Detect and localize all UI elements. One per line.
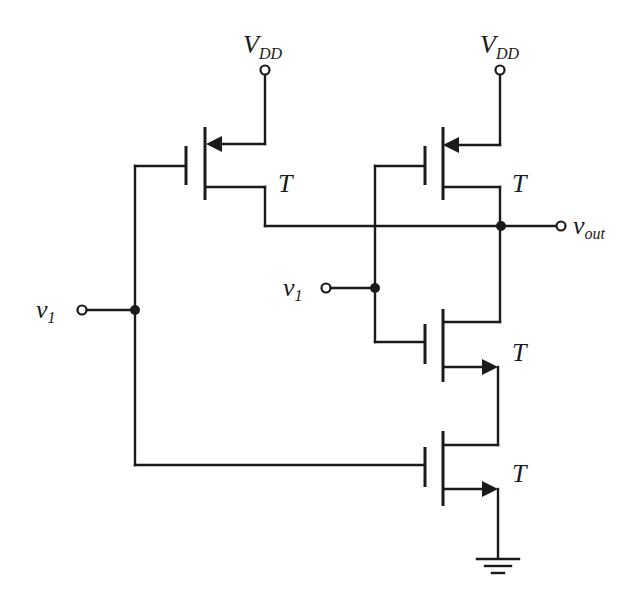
circuit-diagram: VDD T VDD T vout v1 T v1 <box>0 0 635 609</box>
pmos-right <box>375 75 500 342</box>
pmos-right-arrow-icon <box>443 137 459 153</box>
vdd-left-label: VDD <box>243 30 282 62</box>
nmos-bottom-arrow-icon <box>482 481 498 497</box>
nmos-bottom-label: T <box>512 459 528 488</box>
v1-right-terminal <box>322 284 331 293</box>
ground-icon <box>477 559 519 573</box>
v1-left-label: v1 <box>36 295 56 326</box>
vout-terminal <box>557 222 566 231</box>
vdd-right-label: VDD <box>480 30 519 62</box>
nmos-top-label: T <box>512 338 528 367</box>
v1-right-junction-node <box>370 283 380 293</box>
v1-left-terminal <box>78 306 87 315</box>
pmos-right-label: T <box>512 169 528 198</box>
nmos-bottom <box>135 431 498 558</box>
output-junction-node <box>496 221 506 231</box>
v1-right-label: v1 <box>283 273 303 304</box>
pmos-left-arrow-icon <box>206 136 222 152</box>
nmos-top <box>375 309 500 445</box>
pmos-left <box>135 75 265 226</box>
vdd-right-terminal <box>496 66 505 75</box>
vout-label: vout <box>573 211 606 242</box>
nmos-top-arrow-icon <box>482 359 498 375</box>
v1-left-junction-node <box>130 305 140 315</box>
pmos-left-label: T <box>278 169 294 198</box>
vdd-left-terminal <box>261 66 270 75</box>
